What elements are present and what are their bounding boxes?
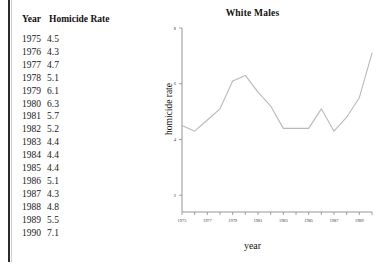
- cell-year: 1980: [22, 98, 47, 111]
- cell-year: 1982: [22, 123, 47, 136]
- table-row: 19815.7: [22, 110, 115, 123]
- cell-rate: 4.5: [47, 33, 115, 46]
- x-tick-label: 1985: [304, 218, 314, 223]
- cell-rate: 5.1: [47, 175, 115, 188]
- cell-year: 1983: [22, 136, 47, 149]
- y-tick-label: 2: [174, 193, 177, 198]
- chart-title: White Males: [150, 8, 355, 18]
- cell-rate: 5.5: [47, 214, 115, 227]
- column-header-year: Year: [22, 14, 47, 33]
- y-tick-label: 4: [174, 137, 177, 142]
- cell-rate: 6.1: [47, 85, 115, 98]
- cell-year: 1976: [22, 46, 47, 59]
- page-left-rule: [8, 0, 10, 262]
- cell-rate: 4.3: [47, 46, 115, 59]
- cell-rate: 4.3: [47, 188, 115, 201]
- x-tick-label: 1979: [228, 218, 238, 223]
- cell-rate: 4.4: [47, 162, 115, 175]
- cell-rate: 6.3: [47, 98, 115, 111]
- column-header-homicide-rate: Homicide Rate: [47, 14, 115, 33]
- cell-rate: 5.2: [47, 123, 115, 136]
- cell-year: 1986: [22, 175, 47, 188]
- table-row: 19834.4: [22, 136, 115, 149]
- cell-year: 1988: [22, 201, 47, 214]
- cell-year: 1990: [22, 227, 47, 240]
- y-tick-label: 6: [174, 81, 177, 86]
- cell-rate: 4.8: [47, 201, 115, 214]
- table-row: 19865.1: [22, 175, 115, 188]
- table-row: 19854.4: [22, 162, 115, 175]
- table-row: 19884.8: [22, 201, 115, 214]
- cell-rate: 7.1: [47, 227, 115, 240]
- cell-year: 1984: [22, 149, 47, 162]
- cell-year: 1987: [22, 188, 47, 201]
- table-row: 19844.4: [22, 149, 115, 162]
- x-axis-ticks: 19751977197919811983198519871989: [178, 212, 372, 223]
- cell-year: 1975: [22, 33, 47, 46]
- table-head: Year Homicide Rate: [22, 14, 115, 33]
- cell-year: 1985: [22, 162, 47, 175]
- cell-rate: 4.4: [47, 136, 115, 149]
- y-tick-label: 8: [174, 26, 177, 31]
- cell-rate: 5.7: [47, 110, 115, 123]
- chart-plot-area: 8642 19751977197919811983198519871989: [150, 22, 375, 236]
- cell-year: 1977: [22, 59, 47, 72]
- homicide-rate-chart: White Males homicide rate 8642 197519771…: [150, 8, 375, 266]
- x-tick-label: 1989: [355, 218, 365, 223]
- data-table: Year Homicide Rate 19754.5 19764.3 19774…: [22, 14, 115, 240]
- table-row: 19806.3: [22, 98, 115, 111]
- cell-rate: 4.7: [47, 59, 115, 72]
- cell-year: 1981: [22, 110, 47, 123]
- table-row: 19796.1: [22, 85, 115, 98]
- cell-rate: 4.4: [47, 149, 115, 162]
- homicide-rate-table: Year Homicide Rate 19754.5 19764.3 19774…: [22, 14, 134, 240]
- chart-x-axis-label: year: [150, 240, 355, 251]
- table-row: 19754.5: [22, 33, 115, 46]
- page-left-rule-inner: [11, 0, 12, 262]
- cell-year: 1979: [22, 85, 47, 98]
- table-row: 19874.3: [22, 188, 115, 201]
- table-row: 19774.7: [22, 59, 115, 72]
- table-row: 19785.1: [22, 72, 115, 85]
- page-canvas: Year Homicide Rate 19754.5 19764.3 19774…: [0, 0, 381, 272]
- table-row: 19764.3: [22, 46, 115, 59]
- x-tick-label: 1983: [279, 218, 289, 223]
- cell-year: 1978: [22, 72, 47, 85]
- y-axis-ticks: 8642: [174, 26, 182, 198]
- x-tick-label: 1977: [203, 218, 213, 223]
- x-tick-label: 1975: [178, 218, 188, 223]
- cell-year: 1989: [22, 214, 47, 227]
- cell-rate: 5.1: [47, 72, 115, 85]
- table-header-row: Year Homicide Rate: [22, 14, 115, 33]
- table-row: 19907.1: [22, 227, 115, 240]
- table-row: 19825.2: [22, 123, 115, 136]
- table-body: 19754.5 19764.3 19774.7 19785.1 19796.1 …: [22, 33, 115, 240]
- table-row: 19895.5: [22, 214, 115, 227]
- homicide-rate-line: [182, 53, 372, 131]
- x-tick-label: 1981: [254, 218, 263, 223]
- x-tick-label: 1987: [330, 218, 340, 223]
